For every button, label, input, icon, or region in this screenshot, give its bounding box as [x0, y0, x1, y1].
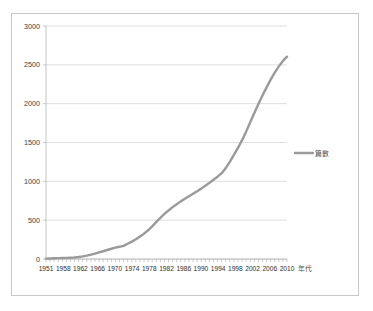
x-axis-tick-label: 1958 — [56, 265, 71, 272]
x-axis-tick-label: 1970 — [108, 265, 123, 272]
x-axis-tick-label: 1951 — [39, 265, 54, 272]
x-axis-title: 年代 — [298, 264, 312, 273]
x-axis-tick-label: 1994 — [211, 265, 226, 272]
x-axis-tick-label: 1990 — [194, 265, 209, 272]
y-axis-tick-label: 500 — [28, 216, 40, 225]
y-axis-tick-label: 3000 — [24, 22, 40, 31]
x-axis-tick-label: 1962 — [73, 265, 88, 272]
data-series-line — [46, 57, 287, 259]
x-axis-tick-label: 2002 — [245, 265, 260, 272]
x-axis-tick-label: 1998 — [228, 265, 243, 272]
chart-plot-area: 0500100015002000250030001951195819621966… — [12, 14, 358, 295]
y-axis-tick-label: 1500 — [24, 138, 40, 147]
x-axis-tick-label: 2006 — [262, 265, 277, 272]
legend-label: 篇數 — [315, 149, 329, 158]
x-axis-tick-label: 1978 — [142, 265, 157, 272]
x-axis-tick-label: 2010 — [280, 265, 295, 272]
x-axis-tick-label: 1974 — [125, 265, 140, 272]
chart-frame: 0500100015002000250030001951195819621966… — [11, 13, 359, 296]
y-axis-tick-label: 0 — [36, 255, 40, 264]
y-axis-tick-label: 1000 — [24, 177, 40, 186]
x-axis-tick-label: 1966 — [90, 265, 105, 272]
y-axis-tick-label: 2500 — [24, 60, 40, 69]
y-axis-tick-label: 2000 — [24, 99, 40, 108]
x-axis-tick-label: 1982 — [159, 265, 174, 272]
line-chart-svg: 0500100015002000250030001951195819621966… — [12, 14, 358, 295]
x-axis-tick-label: 1986 — [176, 265, 191, 272]
